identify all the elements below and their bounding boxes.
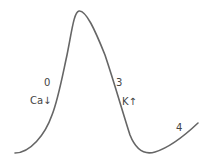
action-potential-diagram: 0 Ca↓ 3 K↑ 4 bbox=[0, 0, 208, 160]
calcium-influx-label: Ca↓ bbox=[30, 96, 52, 106]
potassium-efflux-label: K↑ bbox=[122, 97, 137, 107]
phase-4-label: 4 bbox=[176, 123, 182, 133]
phase-3-label: 3 bbox=[116, 78, 122, 88]
action-potential-curve bbox=[0, 0, 208, 160]
membrane-potential-line bbox=[15, 11, 198, 153]
phase-0-label: 0 bbox=[44, 78, 50, 88]
